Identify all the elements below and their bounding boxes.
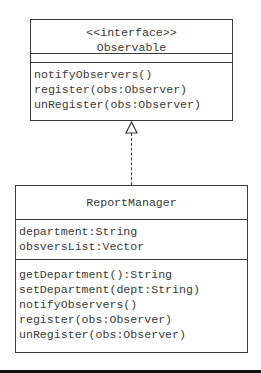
operation: getDepartment():String [19, 267, 247, 282]
operation: notifyObservers() [34, 67, 232, 82]
operation: setDepartment(dept:String) [19, 282, 247, 297]
operation: register(obs:Observer) [19, 312, 247, 327]
realization-dashed-line [131, 133, 132, 185]
operation: register(obs:Observer) [34, 82, 232, 97]
observable-operations: notifyObservers() register(obs:Observer)… [31, 62, 232, 112]
operation: unRegister(obs:Observer) [34, 97, 232, 112]
observable-interface-box: <<interface>> Observable notifyObservers… [30, 19, 233, 121]
attribute: obsversList:Vector [19, 239, 247, 254]
reportmanager-header: ReportManager [16, 186, 247, 219]
reportmanager-attributes: department:String obsversList:Vector [16, 219, 247, 259]
attribute: department:String [19, 224, 247, 239]
reportmanager-operations: getDepartment():String setDepartment(dep… [16, 259, 247, 342]
observable-header: <<interface>> Observable [31, 20, 232, 53]
operation: unRegister(obs:Observer) [19, 327, 247, 342]
operation: notifyObservers() [19, 297, 247, 312]
reportmanager-class-box: ReportManager department:String obsversL… [15, 185, 248, 353]
interface-stereotype: <<interface>> [31, 25, 232, 40]
class-name: ReportManager [16, 195, 247, 210]
